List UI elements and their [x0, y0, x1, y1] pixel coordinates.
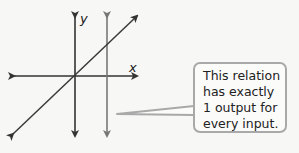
callout-line: every input.	[203, 116, 285, 132]
callout-pointer	[117, 106, 194, 115]
callout-line: has exactly	[203, 84, 285, 100]
y-axis-label: y	[80, 12, 88, 25]
callout-box: This relation has exactly 1 output for e…	[193, 62, 287, 133]
x-axis-label: x	[129, 61, 137, 74]
callout-line: 1 output for	[203, 100, 285, 116]
callout-line: This relation	[203, 68, 285, 84]
